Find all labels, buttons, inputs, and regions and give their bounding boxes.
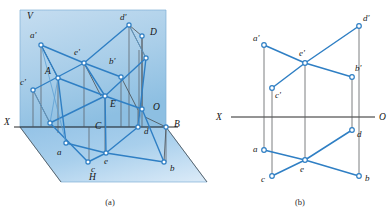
node-a-b: [262, 148, 267, 153]
node-e-b: [303, 158, 308, 163]
caption-b: (b): [295, 197, 305, 207]
frontal-projection-edges-b: [264, 26, 359, 88]
label-e-prime-b: e': [299, 48, 306, 58]
label-d-a: d: [144, 126, 149, 136]
label-O-a: O: [153, 102, 160, 112]
label-b-b: b: [365, 173, 370, 183]
label-E-a: E: [109, 99, 116, 109]
label-a-prime-a: a': [30, 30, 38, 40]
node-A: [56, 76, 60, 80]
label-X-a: X: [3, 117, 11, 127]
node-d-b: [350, 128, 355, 133]
label-a-b: a: [253, 144, 258, 154]
panel-b: X O a' c' e' b' d' a c e b d: [215, 13, 386, 184]
node-e-prime: [82, 61, 86, 65]
node-B-corner: [164, 125, 168, 129]
node-b: [162, 160, 166, 164]
label-c-b: c: [261, 174, 265, 184]
node-c-prime-b: [270, 86, 275, 91]
node-B-space: [140, 107, 144, 111]
node-b-b: [357, 174, 362, 179]
node-a-prime: [39, 43, 43, 47]
label-d-b: d: [357, 129, 362, 139]
label-c-prime-b: c': [275, 90, 282, 100]
node-C: [48, 121, 52, 125]
label-X-b: X: [215, 112, 223, 122]
label-a-prime-b: a': [253, 33, 261, 43]
node-d-prime-b: [357, 24, 362, 29]
label-a-a: a: [57, 147, 62, 157]
node-b-prime: [119, 75, 123, 79]
label-C-a: C: [95, 121, 102, 131]
node-E: [103, 94, 107, 98]
node-d: [136, 125, 140, 129]
node-a: [64, 141, 68, 145]
label-e-b: e: [300, 164, 304, 174]
panel-a: V H X O B D a' c' e' b' d' A C E a c e d: [3, 10, 207, 182]
node-c-prime: [31, 88, 35, 92]
figure-canvas: V H X O B D a' c' e' b' d' A C E a c e d: [0, 0, 391, 215]
node-e: [104, 151, 108, 155]
node-c-b: [270, 174, 275, 179]
caption-a: (a): [105, 197, 115, 207]
node-a-prime-b: [262, 43, 267, 48]
node-D-space: [144, 56, 148, 60]
label-O-b: O: [379, 112, 386, 122]
label-d-prime-b: d': [363, 13, 371, 23]
horizontal-projection-edges-b: [264, 130, 359, 176]
label-D-a: D: [149, 27, 157, 37]
node-c: [86, 160, 90, 164]
label-A-a: A: [44, 66, 51, 76]
label-b-a: b: [170, 163, 175, 173]
node-b-prime-b: [350, 75, 355, 80]
label-b-prime-a: b': [109, 56, 117, 66]
label-d-prime-a: d': [120, 12, 128, 22]
node-D: [140, 34, 144, 38]
node-e-prime-b: [303, 61, 308, 66]
label-B-a: B: [174, 119, 180, 129]
label-c-a: c: [91, 164, 95, 174]
node-d-prime: [127, 23, 131, 27]
label-e-a: e: [104, 156, 108, 166]
projection-figure: V H X O B D a' c' e' b' d' A C E a c e d: [0, 0, 391, 215]
label-b-prime-b: b': [355, 63, 363, 73]
